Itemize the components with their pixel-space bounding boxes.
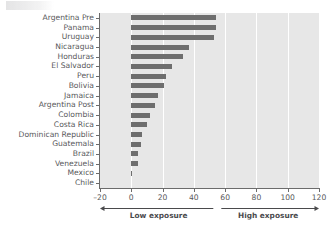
y-axis-label: Bolivia [0, 82, 94, 90]
x-axis-tick-label: 0 [129, 193, 134, 202]
x-axis-tick [194, 189, 195, 192]
y-axis-label: Uruguay [0, 33, 94, 41]
bar-chart-figure: Argentina PrePanamaUruguayNicaraguaHondu… [0, 0, 331, 226]
y-axis-label: Mexico [0, 169, 94, 177]
y-axis-label: Nicaragua [0, 43, 94, 51]
x-axis-tick [163, 189, 164, 192]
y-axis-label: Dominican Republic [0, 131, 94, 139]
y-axis-label: Panama [0, 24, 94, 32]
x-axis-tick-label: 60 [220, 193, 230, 202]
y-axis-tick [96, 154, 99, 155]
y-axis-tick [96, 135, 99, 136]
x-axis-tick-label: 40 [189, 193, 199, 202]
y-axis-tick [96, 125, 99, 126]
y-axis-tick [96, 57, 99, 58]
y-axis-label: Guatemala [0, 140, 94, 148]
x-axis-tick [225, 189, 226, 192]
x-axis-tick [100, 189, 101, 192]
y-axis-label: Costa Rica [0, 121, 94, 129]
y-axis-tick [96, 96, 99, 97]
x-axis-tick-label: –20 [93, 193, 106, 202]
y-axis-label: Jamaica [0, 92, 94, 100]
x-axis-tick [319, 189, 320, 192]
y-axis-label: Argentina Post [0, 101, 94, 109]
y-axis-tick [96, 76, 99, 77]
y-axis-tick [96, 173, 99, 174]
y-axis-tick [96, 66, 99, 67]
y-axis-tick [96, 115, 99, 116]
y-axis-tick [96, 47, 99, 48]
x-axis-tick-label: 20 [158, 193, 168, 202]
y-axis-label: Venezuela [0, 160, 94, 168]
y-axis-tick [96, 183, 99, 184]
y-axis-label: Argentina Pre [0, 14, 94, 22]
y-axis-tick [96, 144, 99, 145]
y-axis-tick [96, 18, 99, 19]
y-axis-label: Peru [0, 72, 94, 80]
y-axis-tick [96, 105, 99, 106]
x-axis-line [99, 188, 320, 189]
x-axis-tick-label: 120 [312, 193, 327, 202]
y-axis-label: Honduras [0, 53, 94, 61]
y-axis-label: Colombia [0, 111, 94, 119]
x-axis-tick [256, 189, 257, 192]
x-axis-tick-label: 100 [280, 193, 295, 202]
x-axis-tick [288, 189, 289, 192]
y-axis-tick [96, 28, 99, 29]
x-axis-tick [131, 189, 132, 192]
y-axis-tick [96, 86, 99, 87]
y-axis-tick [96, 164, 99, 165]
y-axis-label: Chile [0, 179, 94, 187]
y-axis-tick [96, 37, 99, 38]
y-axis-label: El Salvador [0, 62, 94, 70]
x-axis-tick-label: 80 [252, 193, 262, 202]
y-axis-label: Brazil [0, 150, 94, 158]
